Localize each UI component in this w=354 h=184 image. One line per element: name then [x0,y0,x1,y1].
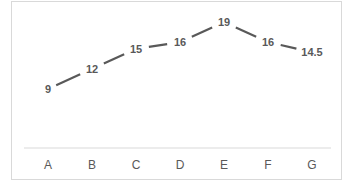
x-tick-label: G [307,158,316,172]
data-label: 16 [262,36,274,48]
x-tick-label: E [220,158,228,172]
line-segment [192,27,212,36]
data-label: 12 [86,63,98,75]
x-axis-tick-labels: ABCDEFG [44,158,317,172]
data-label: 9 [45,83,51,95]
x-tick-label: F [264,158,271,172]
data-label: 16 [174,36,186,48]
x-tick-label: A [44,158,52,172]
line-segment [104,54,124,63]
data-label: 15 [130,43,142,55]
line-segment [236,27,256,36]
x-tick-label: B [88,158,96,172]
line-chart: 9121516191614.5 ABCDEFG [0,0,354,184]
data-label: 14.5 [301,46,322,58]
line-segment [281,45,297,49]
line-segment [149,44,167,47]
x-tick-label: C [132,158,141,172]
x-tick-label: D [176,158,185,172]
data-label: 19 [218,16,230,28]
line-segment [56,74,80,85]
data-labels: 9121516191614.5 [45,16,323,95]
